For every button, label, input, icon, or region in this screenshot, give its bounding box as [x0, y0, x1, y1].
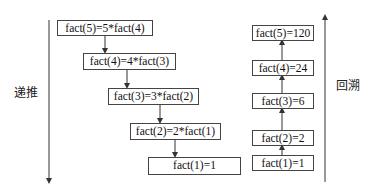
- recursion-label: 递推: [14, 83, 38, 100]
- backtrack-step-5: fact(5)=120: [252, 25, 314, 41]
- recursion-step-4: fact(2)=2*fact(1): [130, 123, 221, 140]
- factorial-recursion-diagram: 递推 fact(5)=5*fact(4) fact(4)=4*fact(3) f…: [0, 0, 370, 192]
- backtrack-step-1: fact(1)=1: [252, 155, 314, 171]
- recursion-step-5: fact(1)=1: [148, 157, 241, 175]
- backtrack-step-4: fact(4)=24: [252, 60, 314, 76]
- recursion-step-1: fact(5)=5*fact(4): [57, 20, 153, 36]
- recursion-step-3: fact(3)=3*fact(2): [108, 88, 199, 105]
- backtrack-label: 回溯: [336, 76, 360, 93]
- backtrack-step-3: fact(3)=6: [252, 93, 314, 109]
- backtrack-step-2: fact(2)=2: [252, 130, 314, 146]
- recursion-step-2: fact(4)=4*fact(3): [83, 53, 176, 70]
